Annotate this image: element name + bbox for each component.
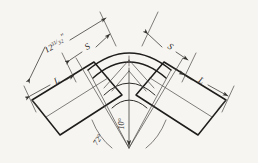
center-angle-10-text: 10° <box>117 118 126 130</box>
technical-drawing-svg: 1231/32" S L S L 72° 10° <box>0 0 258 163</box>
label-angle-10-group: 10° <box>117 118 126 130</box>
drawing-canvas: 1231/32" S L S L 72° 10° <box>0 0 258 163</box>
